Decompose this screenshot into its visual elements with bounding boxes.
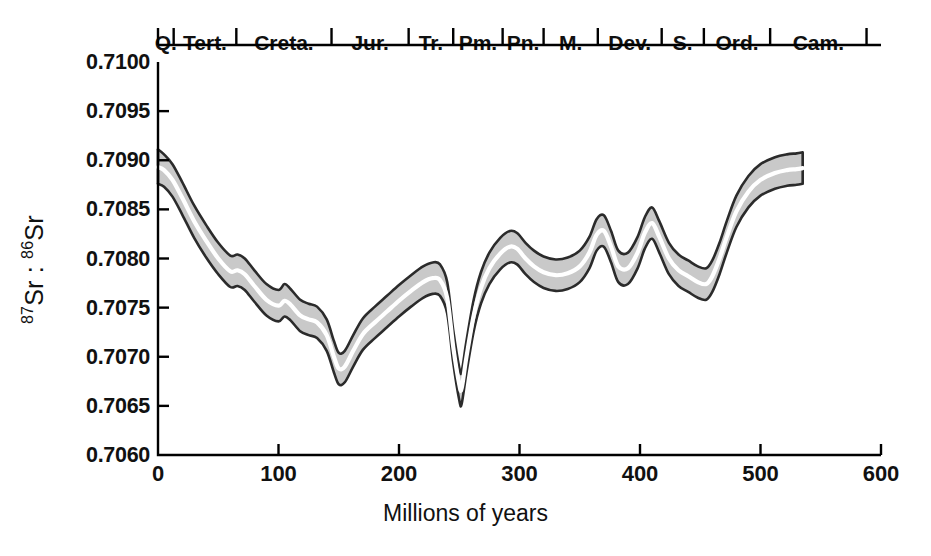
x-axis-title: Millions of years (0, 500, 931, 527)
plot-area (0, 0, 931, 556)
geologic-timescale-bar (158, 28, 881, 45)
uncertainty-band (158, 149, 803, 406)
strontium-isotope-chart: 87Sr : 86Sr 0.70600.70650.70700.70750.70… (0, 0, 931, 556)
band-upper-outline (158, 149, 803, 374)
